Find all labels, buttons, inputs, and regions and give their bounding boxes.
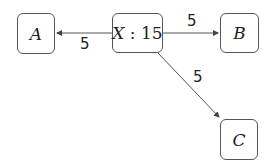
edge-x-to-c	[158, 53, 219, 117]
node-c-label: C	[232, 130, 245, 150]
node-x: X : 15	[112, 13, 163, 53]
edge-label-x-a: 5	[80, 35, 90, 53]
edge-label-x-b: 5	[187, 12, 197, 30]
node-x-separator: :	[124, 23, 141, 43]
node-x-label: X	[112, 23, 124, 43]
node-a: A	[17, 13, 55, 54]
node-b-label: B	[233, 23, 246, 43]
node-x-value: 15	[141, 23, 163, 43]
node-a-label: A	[30, 24, 42, 44]
node-c: C	[220, 119, 258, 160]
edge-label-x-c: 5	[193, 68, 203, 86]
node-b: B	[220, 13, 259, 53]
